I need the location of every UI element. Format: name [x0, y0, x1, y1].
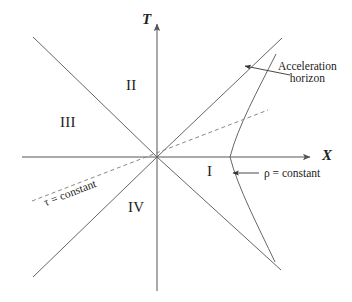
- region-label-i: I: [207, 164, 212, 180]
- region-label-iii: III: [60, 115, 76, 131]
- horizon-line-lower-right: [157, 157, 281, 270]
- horizon-line-lower-left: [33, 157, 157, 277]
- t-axis-label: T: [142, 12, 151, 28]
- spacetime-diagram: T X I II III IV Acceleration horizon ρ =…: [0, 0, 352, 302]
- horizon-line-upper-right: [157, 38, 282, 157]
- rho-constant-annotation: ρ = constant: [264, 167, 320, 179]
- diagram-canvas: [0, 0, 352, 302]
- acceleration-horizon-line2: horizon: [278, 72, 337, 84]
- region-label-iv: IV: [128, 200, 144, 216]
- region-label-ii: II: [126, 78, 137, 94]
- horizon-line-upper-left: [33, 37, 157, 157]
- acceleration-horizon-annotation: Acceleration horizon: [278, 60, 337, 84]
- rho-constant-hyperbola: [230, 54, 276, 262]
- acceleration-horizon-line1: Acceleration: [278, 60, 337, 72]
- x-axis-label: X: [322, 148, 332, 164]
